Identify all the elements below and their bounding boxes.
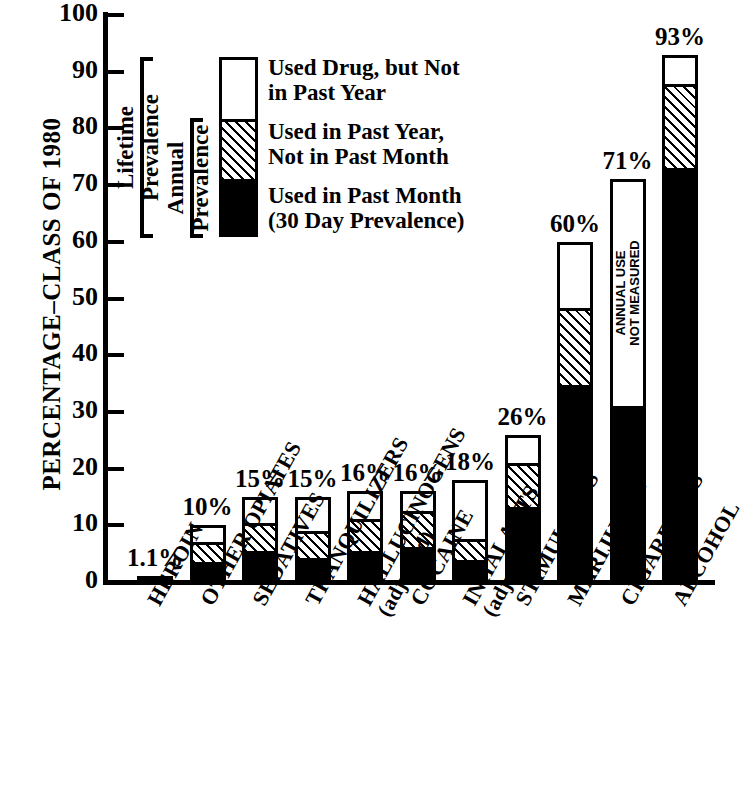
legend-label-not-past-year: Used Drug, but Not in Past Year [268,55,460,105]
y-tick-label-90: 90 [12,55,98,85]
legend-swatch-not-past-year [222,60,255,122]
segment-past-year-not-month [560,308,590,388]
y-tick-20 [108,467,124,471]
y-tick-label-80: 80 [12,111,98,141]
legend-swatch-past-month [222,182,255,234]
y-tick-label-30: 30 [12,395,98,425]
segment-past-year-not-month [665,84,695,171]
y-tick-label-40: 40 [12,338,98,368]
y-tick-label-50: 50 [12,282,98,312]
y-tick-10 [108,523,124,527]
y-tick-30 [108,410,124,414]
y-tick-100 [108,13,124,17]
lifetime-prevalence-label: Lifetime Prevalence [113,57,163,238]
bar-value-label-alcohol: 93% [630,23,730,51]
annual-use-not-measured-note: ANNUAL USE NOT MEASURED [614,213,642,373]
annual-prevalence-label: Annual Prevalence [163,118,213,238]
y-tick-label-100: 100 [12,0,98,28]
legend-swatch-bar [219,57,258,237]
y-tick-50 [108,297,124,301]
y-tick-label-60: 60 [12,225,98,255]
y-tick-60 [108,240,124,244]
y-tick-label-20: 20 [12,452,98,482]
legend-swatch-past-year [222,122,255,182]
legend-label-past-year: Used in Past Year, Not in Past Month [268,119,449,169]
y-tick-40 [108,353,124,357]
legend-label-past-month: Used in Past Month (30 Day Prevalence) [268,183,464,233]
y-tick-label-0: 0 [12,565,98,595]
y-tick-label-70: 70 [12,168,98,198]
y-tick-0 [108,580,124,584]
y-tick-label-10: 10 [12,508,98,538]
